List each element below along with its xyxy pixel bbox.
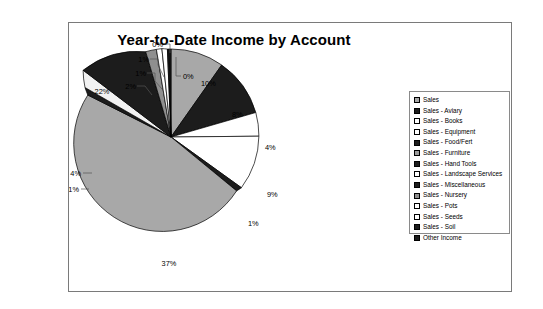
legend-swatch-icon	[414, 182, 420, 188]
data-label-sales-soil: 0%	[152, 40, 163, 49]
legend-item[interactable]: Sales - Books	[414, 116, 506, 127]
legend-item[interactable]: Sales - Aviary	[414, 106, 506, 117]
legend-label: Sales	[423, 95, 439, 106]
legend-swatch-icon	[414, 203, 420, 209]
data-label-sales-pots: 1%	[135, 69, 146, 78]
legend-item[interactable]: Sales - Food/Fert	[414, 137, 506, 148]
legend-item[interactable]: Sales - Soil	[414, 222, 506, 233]
data-label-sales: 10%	[201, 79, 216, 88]
legend-swatch-icon	[414, 140, 420, 146]
data-label-sales-seeds: 1%	[138, 55, 149, 64]
data-label-other-income: 0%	[183, 72, 194, 81]
data-label-sales-miscellaneous: 22%	[95, 87, 110, 96]
legend-swatch-icon	[414, 193, 420, 199]
legend-swatch-icon	[414, 97, 420, 103]
data-label-sales-furniture: 37%	[162, 259, 177, 268]
legend-swatch-icon	[414, 108, 420, 114]
legend-swatch-icon	[414, 118, 420, 124]
legend-label: Sales - Aviary	[423, 106, 462, 117]
legend-label: Sales - Hand Tools	[423, 159, 477, 170]
legend-label: Sales - Furniture	[423, 148, 470, 159]
data-label-sales-books: 4%	[265, 143, 276, 152]
data-label-sales-food-fert: 1%	[248, 219, 259, 228]
data-label-sales-aviary: 8%	[232, 110, 243, 119]
legend-item[interactable]: Sales - Seeds	[414, 212, 506, 223]
legend-item[interactable]: Sales - Landscape Services	[414, 169, 506, 180]
data-label-sales-hand-tools: 1%	[69, 185, 79, 194]
legend-label: Sales - Soil	[423, 222, 455, 233]
legend-swatch-icon	[414, 235, 420, 241]
legend-swatch-icon	[414, 214, 420, 220]
legend-swatch-icon	[414, 224, 420, 230]
legend-label: Other Income	[423, 233, 462, 244]
chart-frame: Year-to-Date Income by Account	[68, 22, 512, 292]
legend-item[interactable]: Sales - Hand Tools	[414, 159, 506, 170]
legend-item[interactable]: Sales - Nursery	[414, 190, 506, 201]
pie-chart-svg: 0% 1% 1% 2% 0% 10% 8% 4% 9% 1% 37% 1% 4%…	[69, 23, 407, 291]
legend-item[interactable]: Sales	[414, 95, 506, 106]
legend-item[interactable]: Sales - Miscellaneous	[414, 180, 506, 191]
legend-label: Sales - Pots	[423, 201, 457, 212]
legend-label: Sales - Seeds	[423, 212, 463, 223]
legend-label: Sales - Nursery	[423, 190, 467, 201]
data-label-sales-equipment: 9%	[267, 190, 278, 199]
legend-item[interactable]: Sales - Equipment	[414, 127, 506, 138]
data-label-sales-landscape-services: 4%	[70, 169, 81, 178]
legend-label: Sales - Miscellaneous	[423, 180, 485, 191]
legend-item[interactable]: Other Income	[414, 233, 506, 244]
legend-swatch-icon	[414, 150, 420, 156]
legend-swatch-icon	[414, 161, 420, 167]
pie-chart-plot-area: 0% 1% 1% 2% 0% 10% 8% 4% 9% 1% 37% 1% 4%…	[69, 23, 407, 291]
chart-legend: Sales Sales - Aviary Sales - Books Sales…	[409, 91, 510, 234]
legend-swatch-icon	[414, 171, 420, 177]
pie-slices	[74, 49, 259, 232]
legend-label: Sales - Food/Fert	[423, 137, 472, 148]
legend-item[interactable]: Sales - Pots	[414, 201, 506, 212]
legend-item[interactable]: Sales - Furniture	[414, 148, 506, 159]
legend-label: Sales - Equipment	[423, 127, 475, 138]
data-label-sales-nursery: 2%	[125, 82, 136, 91]
legend-label: Sales - Landscape Services	[423, 169, 502, 180]
legend-swatch-icon	[414, 129, 420, 135]
legend-label: Sales - Books	[423, 116, 462, 127]
